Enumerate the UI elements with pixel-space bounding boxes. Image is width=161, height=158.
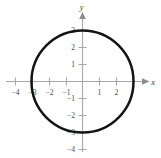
x-tick-label--2: −2 <box>45 88 53 97</box>
y-tick-label--1: −1 <box>67 94 75 103</box>
graph-figure: −4 −3 −2 −1 1 2 x 3 2 1 −1 −2 −3 <box>0 0 161 158</box>
y-tick-label-1: 1 <box>71 60 75 69</box>
coordinate-plane-plot: −4 −3 −2 −1 1 2 x 3 2 1 −1 −2 −3 <box>0 0 161 158</box>
y-tick-label--4: −4 <box>67 145 75 154</box>
y-axis-arrow-icon <box>79 12 86 19</box>
y-tick-label--2: −2 <box>67 111 75 120</box>
y-tick-label-2: 2 <box>71 43 75 52</box>
x-tick-label--4: −4 <box>11 88 19 97</box>
y-axis-label: y <box>79 3 84 12</box>
x-tick-label-1: 1 <box>98 88 102 97</box>
x-axis-arrow-icon <box>142 78 150 85</box>
x-axis-label: x <box>150 78 155 87</box>
x-tick-label-2: 2 <box>115 88 119 97</box>
